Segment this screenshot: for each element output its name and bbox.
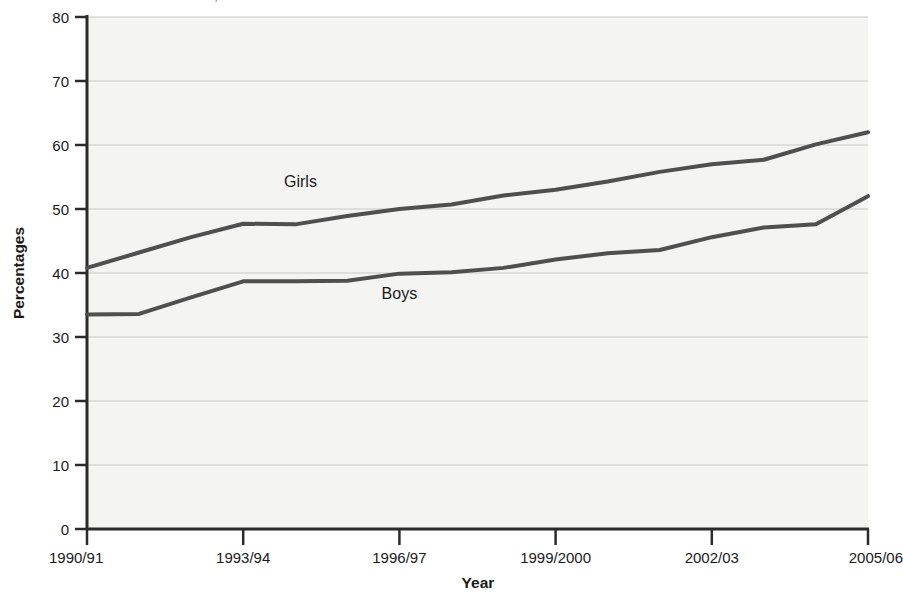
x-axis-tick-label: 2005/06 — [849, 549, 903, 566]
y-axis-ticks — [75, 17, 87, 529]
chart-page: xxxxxx xxxxxxx xxxxxxxxx, xxxxx xxxxxxx … — [0, 0, 903, 603]
series-label-boys: Boys — [382, 285, 418, 302]
y-axis-tick-label: 70 — [52, 73, 69, 90]
x-axis-tick-labels: 1990/911993/941996/971999/20002002/03200… — [49, 549, 903, 566]
x-axis-tick-label: 1996/97 — [372, 549, 426, 566]
series-label-girls: Girls — [284, 173, 317, 190]
y-axis-tick-label: 0 — [61, 521, 69, 538]
x-axis-tick-label: 1999/2000 — [520, 549, 591, 566]
y-axis-tick-label: 10 — [52, 457, 69, 474]
y-axis-tick-label: 80 — [52, 9, 69, 26]
y-axis-tick-label: 20 — [52, 393, 69, 410]
y-axis-tick-labels: 01020304050607080 — [52, 9, 69, 538]
y-axis-tick-label: 60 — [52, 137, 69, 154]
y-axis-tick-label: 50 — [52, 201, 69, 218]
x-axis-title: Year — [462, 574, 495, 591]
x-axis-ticks — [87, 529, 868, 545]
line-chart: 01020304050607080 1990/911993/941996/971… — [0, 0, 903, 603]
y-axis-tick-label: 40 — [52, 265, 69, 282]
x-axis-tick-label: 1993/94 — [216, 549, 270, 566]
x-axis-tick-label: 2002/03 — [685, 549, 739, 566]
y-axis-tick-label: 30 — [52, 329, 69, 346]
y-axis-title: Percentages — [10, 227, 27, 319]
x-axis-tick-label: 1990/91 — [49, 549, 103, 566]
